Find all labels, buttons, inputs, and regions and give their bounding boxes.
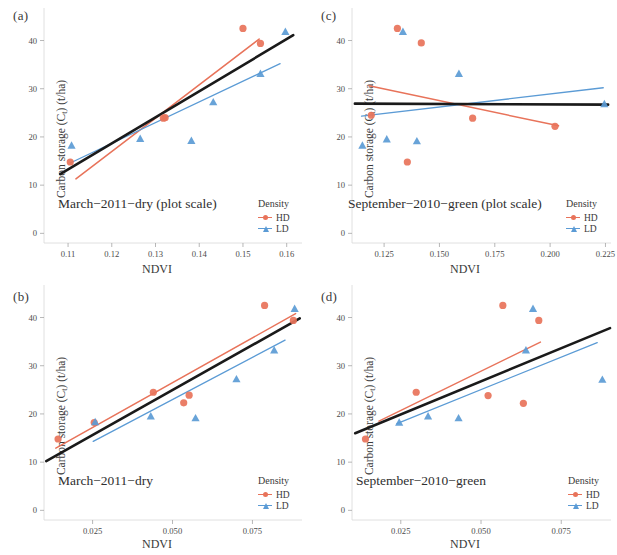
hd-marker-icon	[568, 490, 582, 500]
data-point-ld	[209, 98, 217, 105]
legend-label-hd: HD	[276, 490, 290, 500]
legend-item-ld[interactable]: LD	[566, 223, 598, 234]
legend-label-ld: LD	[586, 501, 599, 511]
data-point-ld	[413, 137, 421, 144]
legend-item-hd[interactable]: HD	[568, 489, 600, 500]
y-tick-label: 30	[336, 361, 345, 371]
data-point-ld	[191, 414, 199, 421]
panel-c-title: September−2010−green (plot scale)	[348, 196, 542, 212]
legend-item-ld[interactable]: LD	[568, 500, 600, 511]
legend-title: Density	[258, 475, 290, 486]
regression-line-overall	[355, 104, 608, 105]
panel-d-title: September−2010−green	[356, 473, 486, 489]
panel-a-x-axis-label: NDVI	[12, 262, 302, 277]
panel-b: (b) Carbon storage (Ct) (t/ha) 010203040…	[0, 277, 308, 555]
x-tick-label: 0.225	[596, 249, 615, 259]
data-point-hd	[484, 392, 491, 399]
y-tick-label: 10	[336, 457, 345, 467]
x-tick-label: 0.175	[485, 249, 504, 259]
panel-c: (c) Carbon storage (Ct) (t/ha) 010203040…	[308, 0, 617, 277]
legend-item-hd[interactable]: HD	[258, 489, 290, 500]
data-point-ld	[598, 375, 606, 382]
data-point-ld	[291, 305, 299, 312]
panel-d-x-axis-label: NDVI	[320, 537, 610, 552]
data-point-hd	[261, 302, 268, 309]
legend-title: Density	[566, 198, 598, 209]
y-tick-label: 10	[28, 180, 37, 190]
data-point-ld	[281, 28, 289, 35]
data-point-hd	[150, 389, 157, 396]
ld-marker-icon	[566, 224, 580, 234]
panel-d-legend: Density HD LD	[568, 475, 600, 511]
legend-item-hd[interactable]: HD	[258, 212, 290, 223]
data-point-ld	[455, 69, 463, 76]
panel-d: (d) Carbon storage (Ct) (t/ha) 010203040…	[308, 277, 617, 555]
y-tick-label: 40	[336, 313, 345, 323]
legend-item-hd[interactable]: HD	[566, 212, 598, 223]
data-point-hd	[368, 112, 375, 119]
data-point-hd	[186, 392, 193, 399]
legend-label-hd: HD	[586, 490, 600, 500]
data-point-hd	[520, 400, 527, 407]
data-point-hd	[418, 39, 425, 46]
y-tick-label: 30	[28, 361, 37, 371]
y-tick-label: 30	[28, 84, 37, 94]
regression-line-overall	[46, 318, 300, 461]
data-point-hd	[413, 389, 420, 396]
legend-label-ld: LD	[276, 224, 289, 234]
data-point-ld	[187, 136, 195, 143]
data-point-ld	[67, 141, 75, 148]
x-tick-label: 0.025	[83, 526, 102, 536]
panel-d-plot-area: 0102030400.0250.0500.075	[308, 277, 617, 555]
data-point-hd	[499, 302, 506, 309]
figure-panel-grid: (a) Carbon storage (Ct) (t/ha) 010203040…	[0, 0, 617, 555]
y-tick-label: 10	[28, 457, 37, 467]
data-point-hd	[469, 115, 476, 122]
x-tick-label: 0.050	[471, 526, 490, 536]
x-tick-label: 0.13	[148, 249, 163, 259]
legend-title: Density	[568, 475, 600, 486]
panel-b-x-axis-label: NDVI	[12, 537, 302, 552]
data-point-hd	[54, 435, 61, 442]
data-point-hd	[394, 25, 401, 32]
data-point-hd	[551, 123, 558, 130]
regression-line-hd	[369, 86, 558, 126]
y-tick-label: 20	[28, 409, 37, 419]
panel-a: (a) Carbon storage (Ct) (t/ha) 010203040…	[0, 0, 308, 277]
x-tick-label: 0.11	[61, 249, 76, 259]
y-tick-label: 30	[336, 84, 345, 94]
data-point-hd	[239, 25, 246, 32]
data-point-hd	[404, 158, 411, 165]
data-point-ld	[136, 135, 144, 142]
x-tick-label: 0.150	[430, 249, 449, 259]
x-tick-label: 0.075	[243, 526, 262, 536]
regression-line-overall	[355, 328, 610, 433]
panel-c-legend: Density HD LD	[566, 198, 598, 234]
ld-marker-icon	[258, 224, 272, 234]
legend-item-ld[interactable]: LD	[258, 500, 290, 511]
data-point-ld	[232, 375, 240, 382]
panel-b-plot-area: 0102030400.0250.0500.075	[0, 277, 308, 555]
regression-line-ld	[397, 343, 597, 424]
data-point-ld	[529, 305, 537, 312]
data-point-ld	[256, 69, 264, 76]
legend-label-ld: LD	[584, 224, 597, 234]
panel-a-title: March−2011−dry (plot scale)	[58, 196, 217, 212]
legend-item-ld[interactable]: LD	[258, 223, 290, 234]
legend-label-hd: HD	[584, 213, 598, 223]
panel-b-legend: Density HD LD	[258, 475, 290, 511]
panel-c-x-axis-label: NDVI	[320, 262, 610, 277]
regression-line-hd	[379, 342, 540, 421]
x-tick-label: 0.12	[104, 249, 119, 259]
x-tick-label: 0.14	[192, 249, 208, 259]
x-tick-label: 0.075	[552, 526, 571, 536]
x-tick-label: 0.125	[374, 249, 393, 259]
x-tick-label: 0.050	[163, 526, 182, 536]
data-point-hd	[257, 40, 264, 47]
x-tick-label: 0.15	[235, 249, 250, 259]
legend-title: Density	[258, 198, 290, 209]
hd-marker-icon	[566, 213, 580, 223]
legend-label-hd: HD	[276, 213, 290, 223]
regression-line-hd	[56, 314, 296, 449]
panel-a-legend: Density HD LD	[258, 198, 290, 234]
